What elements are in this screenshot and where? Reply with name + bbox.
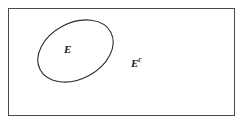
diagram-canvas bbox=[0, 0, 243, 128]
set-e-ellipse bbox=[27, 7, 124, 94]
venn-complement-diagram: E Ec bbox=[0, 0, 243, 128]
universal-set-rectangle bbox=[9, 9, 235, 116]
complement-label-superscript: c bbox=[138, 55, 141, 64]
set-label-e-base: E bbox=[64, 43, 71, 55]
complement-label-e-c: Ec bbox=[131, 56, 142, 69]
set-label-e: E bbox=[64, 44, 71, 55]
